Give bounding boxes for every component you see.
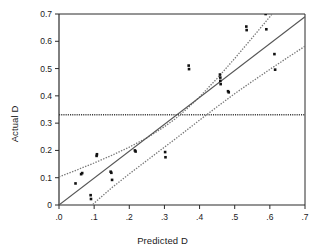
data-point	[219, 73, 222, 76]
confidence-band-upper	[59, 8, 277, 177]
data-point	[81, 172, 84, 175]
data-point	[74, 182, 77, 185]
confidence-bands	[59, 8, 305, 209]
data-point	[265, 28, 268, 31]
y-tick-label: 0.2	[40, 145, 52, 155]
scatter-plot-figure: 00.10.20.30.40.50.60.7 .0.1.2.3.4.5.6.7 …	[0, 0, 325, 248]
data-point	[264, 13, 267, 16]
data-point	[89, 194, 92, 197]
x-tick-label: .5	[231, 212, 238, 222]
data-point	[245, 29, 248, 32]
data-point	[219, 83, 222, 86]
x-tick-label: .3	[161, 212, 168, 222]
data-point	[273, 53, 276, 56]
data-point	[164, 156, 167, 159]
data-point	[187, 64, 190, 67]
y-axis-title: Actual D	[9, 84, 20, 164]
data-point	[96, 153, 99, 156]
data-point	[274, 68, 277, 71]
data-points	[74, 13, 276, 201]
x-tick-label: .6	[266, 212, 273, 222]
regression-line	[59, 17, 305, 205]
plot-canvas: 00.10.20.30.40.50.60.7 .0.1.2.3.4.5.6.7	[0, 0, 325, 248]
confidence-band-lower	[89, 46, 305, 208]
data-point	[164, 151, 167, 154]
y-tick-label: 0.6	[40, 36, 52, 46]
y-tick-label: 0.3	[40, 118, 52, 128]
x-tick-label: .4	[196, 212, 203, 222]
y-tick-label: 0	[47, 200, 52, 210]
data-point	[245, 25, 248, 28]
x-tick-label: .7	[301, 212, 308, 222]
data-point	[110, 172, 113, 175]
data-point	[219, 76, 222, 79]
data-point	[134, 150, 137, 153]
y-tick-label: 0.5	[40, 64, 52, 74]
data-point	[227, 91, 230, 94]
y-tick-label: 0.1	[40, 173, 52, 183]
y-tick-label: 0.4	[40, 91, 52, 101]
x-tick-label: .0	[55, 212, 62, 222]
data-point	[90, 198, 93, 201]
regression-line-path	[59, 17, 305, 205]
x-axis-ticks: .0.1.2.3.4.5.6.7	[55, 205, 308, 222]
x-tick-label: .2	[126, 212, 133, 222]
data-point	[219, 80, 222, 83]
x-tick-label: .1	[91, 212, 98, 222]
data-point	[111, 179, 114, 182]
y-tick-label: 0.7	[40, 9, 52, 19]
y-axis-ticks: 00.10.20.30.40.50.60.7	[40, 9, 59, 210]
data-point	[188, 68, 191, 71]
x-axis-title: Predicted D	[0, 235, 325, 246]
